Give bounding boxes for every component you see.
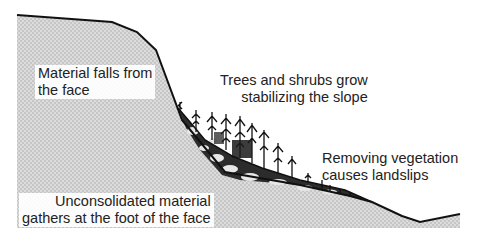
label-line: Removing vegetation [322, 150, 458, 167]
label-trees-stabilize: Trees and shrubs grow stabilizing the sl… [217, 72, 371, 106]
label-material-falls: Material falls from the face [35, 65, 155, 99]
label-line: stabilizing the slope [220, 89, 368, 106]
label-line: Unconsolidated material [22, 193, 211, 210]
label-line: Material falls from [38, 65, 152, 82]
label-line: gathers at the foot of the face [22, 210, 211, 227]
label-line: causes landslips [322, 167, 458, 184]
slope-diagram: Material falls from the face Trees and s… [0, 0, 483, 246]
label-removing-vegetation: Removing vegetation causes landslips [319, 150, 461, 184]
label-line: the face [38, 82, 152, 99]
label-unconsolidated-material: Unconsolidated material gathers at the f… [19, 193, 214, 227]
label-line: Trees and shrubs grow [220, 72, 368, 89]
